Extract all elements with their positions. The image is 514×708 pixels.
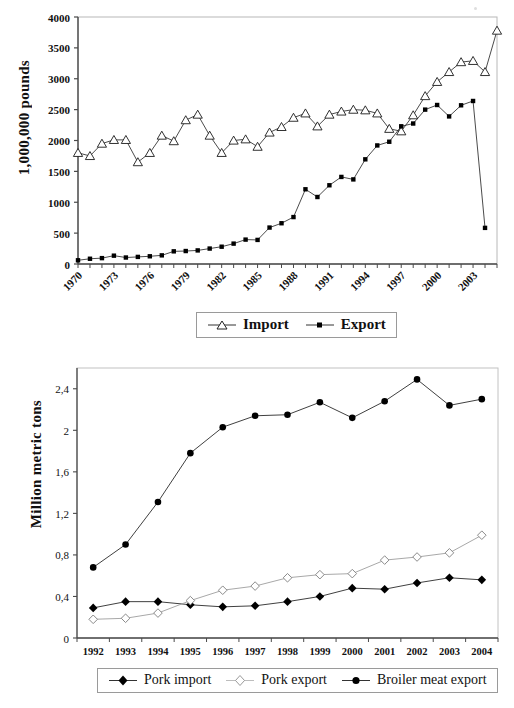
data-point: [90, 564, 97, 571]
legend-top: Import Export: [196, 312, 397, 338]
data-point: [445, 549, 454, 558]
series-broiler-meat-export: [90, 376, 485, 571]
page-footnote: [216, 695, 247, 705]
data-point: [218, 603, 227, 612]
data-point: [459, 103, 463, 107]
x-tick-label: 1997: [245, 646, 266, 657]
data-point: [363, 157, 367, 161]
data-point: [284, 411, 291, 418]
data-point: [100, 256, 104, 260]
y-tick-label: 1,6: [55, 466, 69, 478]
data-point: [265, 128, 274, 136]
data-point: [97, 139, 106, 147]
data-point: [468, 56, 477, 64]
open-triangle-icon: [207, 319, 237, 331]
y-tick-label: 0: [65, 259, 71, 271]
data-point: [445, 573, 454, 582]
data-point: [145, 148, 154, 156]
y-tick-label: 3000: [48, 73, 71, 85]
data-point: [385, 124, 394, 132]
legend-label-import: Import: [243, 316, 289, 333]
data-point: [414, 376, 421, 383]
data-point: [279, 221, 283, 225]
data-point: [349, 105, 358, 113]
data-point: [423, 107, 427, 111]
legend-item-pork-export: Pork export: [225, 672, 327, 688]
legend-label-pork-export: Pork export: [261, 672, 327, 688]
x-tick-label: 1992: [83, 646, 104, 657]
legend-label-export: Export: [341, 316, 386, 333]
data-point: [409, 111, 418, 119]
data-point: [289, 113, 298, 121]
data-point: [154, 597, 163, 606]
data-point: [207, 246, 211, 250]
y-tick-label: 1,2: [55, 508, 69, 520]
data-point: [76, 258, 80, 262]
data-point: [89, 615, 98, 624]
series-pork-export: [89, 531, 486, 624]
y-tick-label: 3500: [48, 42, 71, 54]
y-tick-label: 4000: [48, 12, 71, 24]
data-point: [187, 450, 194, 457]
data-point: [283, 597, 292, 606]
x-tick-label: 1997: [384, 269, 408, 293]
y-tick-label: 0,8: [55, 549, 69, 561]
data-point: [243, 237, 247, 241]
x-tick-label: 2000: [342, 646, 363, 657]
legend-item-export: Export: [305, 316, 386, 333]
filled-diamond-icon: [108, 674, 138, 687]
data-point: [218, 586, 227, 595]
data-point: [413, 579, 422, 588]
chart-canvas-bottom: 00,40,81,21,622,419921993199419951996199…: [0, 340, 514, 708]
data-point: [483, 226, 487, 230]
data-point: [251, 602, 260, 611]
data-point: [169, 137, 178, 145]
x-tick-label: 1982: [204, 269, 228, 293]
data-point: [479, 396, 486, 403]
data-point: [387, 140, 391, 144]
data-point: [133, 158, 142, 166]
data-point: [283, 573, 292, 582]
x-tick-label: 1973: [96, 269, 120, 293]
data-point: [124, 255, 128, 259]
legend-item-broiler-meat-export: Broiler meat export: [341, 672, 487, 688]
scan-speck: [474, 7, 477, 10]
legend-bottom: Pork import Pork export Broiler meat exp…: [97, 668, 498, 693]
data-point: [219, 424, 226, 431]
x-tick-label: 1993: [115, 646, 136, 657]
data-point: [471, 99, 475, 103]
x-tick-label: 1996: [212, 646, 233, 657]
y-tick-label: 2: [64, 425, 70, 437]
data-point: [315, 195, 319, 199]
data-point: [88, 257, 92, 261]
legend-label-broiler-meat-export: Broiler meat export: [377, 672, 487, 688]
x-tick-label: 2001: [374, 646, 395, 657]
data-point: [231, 241, 235, 245]
data-point: [411, 121, 415, 125]
data-point: [121, 597, 130, 606]
data-point: [73, 148, 82, 156]
legend-label-pork-import: Pork import: [144, 672, 211, 688]
data-point: [301, 109, 310, 117]
data-point: [252, 412, 259, 419]
data-point: [316, 592, 325, 601]
data-point: [89, 604, 98, 613]
data-point: [172, 249, 176, 253]
y-tick-label: 2,4: [55, 383, 69, 395]
x-tick-label: 1976: [132, 269, 156, 293]
series-line: [78, 31, 497, 163]
data-point: [112, 253, 116, 257]
data-point: [478, 531, 487, 540]
data-point: [348, 584, 357, 593]
x-tick-label: 2003: [439, 646, 460, 657]
y-tick-label: 2500: [48, 104, 71, 116]
x-tick-label: 1985: [240, 269, 264, 293]
legend-item-import: Import: [207, 316, 289, 333]
data-point: [327, 183, 331, 187]
open-diamond-icon: [225, 674, 255, 687]
data-point: [193, 110, 202, 118]
series-line: [93, 379, 482, 567]
x-tick-label: 1994: [147, 646, 169, 657]
data-point: [241, 135, 250, 143]
data-point: [316, 570, 325, 579]
